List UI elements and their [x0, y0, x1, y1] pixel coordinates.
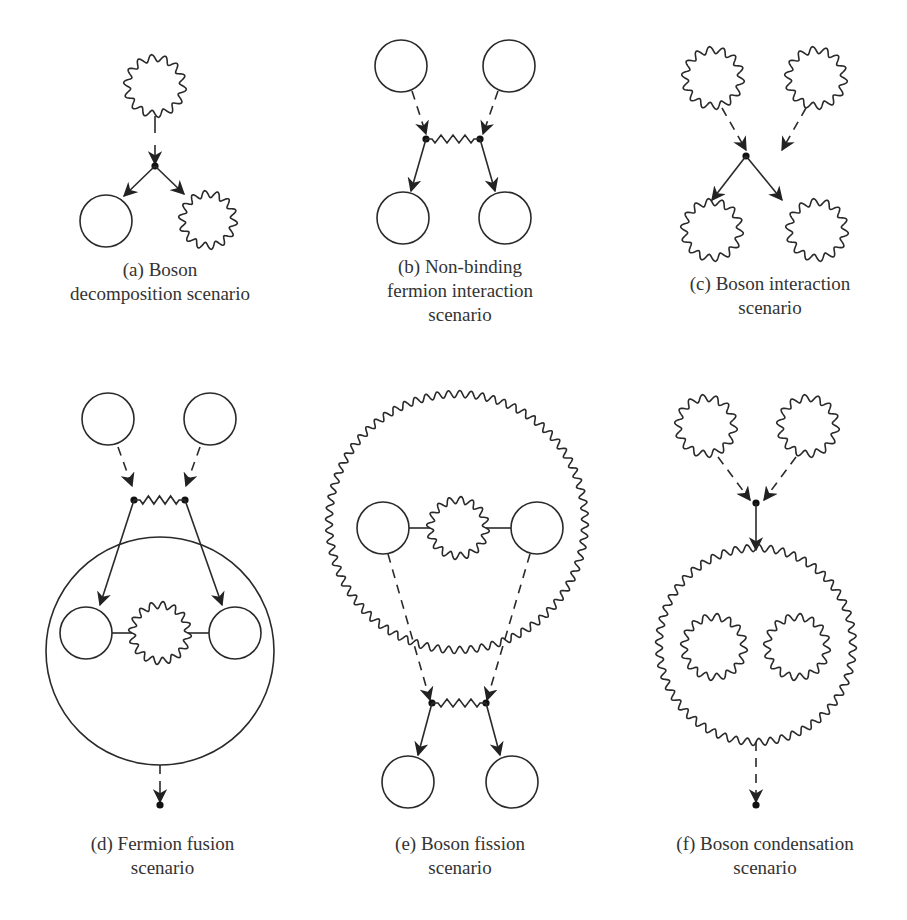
boson-wavy-circle-icon: [785, 47, 848, 110]
caption-line: scenario: [655, 296, 885, 320]
dashed-arrow-icon: [483, 91, 498, 134]
dashed-arrow-icon: [487, 554, 530, 700]
boson-wavy-circle-icon: [682, 47, 745, 110]
solid-arrow-icon: [486, 703, 500, 755]
boson-wavy-circle-icon: [656, 545, 857, 746]
caption-panel-d: (d) Fermion fusion scenario: [45, 832, 280, 880]
caption-line: decomposition scenario: [60, 282, 260, 306]
fermion-circle-icon: [479, 192, 531, 244]
solid-arrow-icon: [418, 703, 432, 755]
caption-panel-e: (e) Boson fission scenario: [355, 832, 565, 880]
dashed-arrow-icon: [412, 91, 426, 134]
caption-line: (a) Boson: [60, 258, 260, 282]
fermion-circle-icon: [184, 393, 236, 445]
solid-arrow-icon: [411, 139, 426, 191]
boson-wavy-circle-icon: [675, 395, 738, 458]
dashed-arrow-icon: [718, 457, 750, 500]
caption-line: scenario: [640, 856, 890, 880]
solid-arrow-icon: [480, 139, 495, 191]
boson-wavy-circle-icon: [179, 191, 238, 250]
boson-wavy-circle-icon: [786, 199, 849, 262]
solid-arrow-icon: [155, 166, 184, 194]
fermion-circle-icon: [46, 537, 274, 765]
boson-wavy-circle-icon: [777, 395, 840, 458]
dashed-arrow-icon: [764, 457, 796, 500]
caption-line: (d) Fermion fusion: [45, 832, 280, 856]
interaction-zigzag-icon: [134, 496, 185, 504]
caption-panel-c: (c) Boson interaction scenario: [655, 272, 885, 320]
interaction-zigzag-icon: [432, 699, 486, 707]
fermion-circle-icon: [209, 607, 261, 659]
fermion-circle-icon: [382, 756, 434, 808]
diagram-canvas: [0, 0, 907, 920]
caption-panel-b: (b) Non-binding fermion interaction scen…: [355, 255, 565, 327]
boson-wavy-circle-icon: [129, 602, 192, 665]
caption-line: (b) Non-binding: [355, 255, 565, 279]
boson-wavy-circle-icon: [681, 199, 744, 262]
vertex-dot-icon: [156, 801, 163, 808]
dashed-arrow-icon: [722, 108, 746, 150]
boson-wavy-circle-icon: [681, 614, 748, 681]
caption-line: (c) Boson interaction: [655, 272, 885, 296]
boson-wavy-circle-icon: [427, 497, 490, 560]
fermion-circle-icon: [511, 502, 563, 554]
caption-panel-a: (a) Boson decomposition scenario: [60, 258, 260, 306]
solid-arrow-icon: [712, 156, 746, 200]
solid-arrow-icon: [124, 166, 155, 196]
dashed-arrow-icon: [186, 447, 200, 486]
boson-wavy-circle-icon: [764, 614, 831, 681]
fermion-circle-icon: [82, 393, 134, 445]
dashed-arrow-icon: [118, 447, 132, 486]
interaction-zigzag-icon: [426, 135, 480, 143]
fermion-circle-icon: [375, 40, 427, 92]
fermion-circle-icon: [80, 195, 132, 247]
boson-wavy-circle-icon: [326, 391, 589, 654]
caption-line: scenario: [355, 856, 565, 880]
fermion-circle-icon: [486, 756, 538, 808]
caption-line: (e) Boson fission: [355, 832, 565, 856]
vertex-dot-icon: [752, 801, 759, 808]
caption-line: (f) Boson condensation: [640, 832, 890, 856]
fermion-circle-icon: [357, 502, 409, 554]
solid-arrow-icon: [746, 156, 782, 200]
caption-line: scenario: [45, 856, 280, 880]
dashed-arrow-icon: [782, 108, 806, 150]
caption-line: fermion interaction: [355, 279, 565, 303]
fermion-circle-icon: [377, 192, 429, 244]
dashed-arrow-icon: [388, 554, 430, 700]
fermion-circle-icon: [60, 607, 112, 659]
solid-arrow-icon: [100, 500, 134, 605]
fermion-circle-icon: [483, 40, 535, 92]
caption-panel-f: (f) Boson condensation scenario: [640, 832, 890, 880]
caption-line: scenario: [355, 303, 565, 327]
boson-wavy-circle-icon: [124, 55, 187, 118]
